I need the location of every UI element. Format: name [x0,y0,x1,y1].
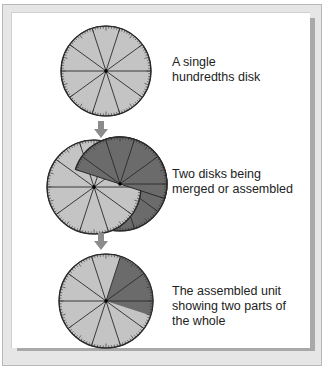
center-pin [104,299,108,303]
caption-line: showing two parts of [172,299,286,314]
single-hundredths-disk [61,26,151,116]
caption-assembled: The assembled unit showing two parts of … [172,284,286,329]
assembled-disk [59,254,153,348]
down-arrow-shape [94,121,108,138]
caption-line: Two disks being [172,167,293,182]
down-arrow-icon [94,233,108,250]
caption-line: merged or assembled [172,182,293,197]
caption-line: hundredths disk [172,70,260,85]
caption-single: A single hundredths disk [172,55,260,85]
merging-disks [47,137,167,234]
center-pin [118,182,122,186]
caption-merge: Two disks being merged or assembled [172,167,293,197]
caption-line: the whole [172,314,286,329]
caption-line: A single [172,55,260,70]
down-arrow-shape [94,233,108,250]
caption-line: The assembled unit [172,284,286,299]
center-pin [92,185,96,189]
down-arrow-icon [94,121,108,138]
center-pin [104,69,108,73]
